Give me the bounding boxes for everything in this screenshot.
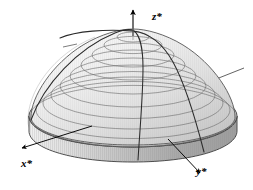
surface-plot-canvas xyxy=(0,0,253,190)
x-axis-label: x* xyxy=(21,158,32,169)
figure-3d-dome-surface: z* x* y* xyxy=(0,0,253,190)
z-axis-label: z* xyxy=(152,11,162,22)
y-axis-label: y* xyxy=(196,166,206,177)
